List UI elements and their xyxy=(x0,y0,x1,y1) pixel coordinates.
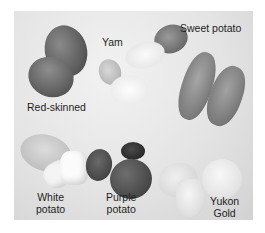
label-white-potato: White potato xyxy=(36,191,65,215)
potato-photo: Yam Sweet potato Red-skinned White potat… xyxy=(14,11,253,220)
yam-slice xyxy=(110,75,148,105)
label-red-skinned: Red-skinned xyxy=(27,101,86,113)
label-yukon-gold: Yukon Gold xyxy=(210,195,239,219)
purple-potato xyxy=(121,142,145,160)
yukon-gold-wedge xyxy=(176,179,204,217)
yukon-gold-half xyxy=(202,159,242,199)
white-potato-wedge xyxy=(60,151,88,185)
label-purple-potato: Purple potato xyxy=(106,191,136,215)
label-yam: Yam xyxy=(102,36,123,48)
label-sweet-potato: Sweet potato xyxy=(180,22,241,34)
